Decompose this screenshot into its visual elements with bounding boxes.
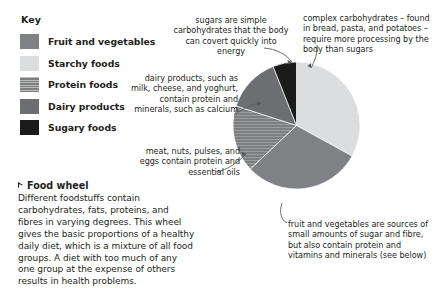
pie-svg	[232, 61, 361, 190]
triangle-marker-icon	[18, 183, 23, 189]
legend-item-sugary-foods: Sugary foods	[20, 117, 180, 139]
caption-heading: Food wheel	[27, 180, 89, 191]
legend-swatch-protein-foods	[20, 77, 39, 92]
legend-label-protein-foods: Protein foods	[48, 79, 118, 90]
annotation-protein-foods: meat, nuts, pulses, and eggs contain pro…	[128, 146, 240, 177]
legend-swatch-dairy-products	[20, 99, 39, 114]
legend-label-starchy-foods: Starchy foods	[48, 58, 120, 69]
legend-item-fruit-and-vegetables: Fruit and vegetables	[20, 31, 180, 53]
legend-item-starchy-foods: Starchy foods	[20, 53, 180, 75]
annotation-dairy-products: dairy products, such as milk, cheese, an…	[128, 73, 238, 115]
legend-label-dairy-products: Dairy products	[48, 101, 125, 112]
figure-caption: Food wheel Different foodstuffs contain …	[18, 180, 196, 288]
legend-swatch-sugary-foods	[20, 120, 39, 135]
legend-label-fruit-and-vegetables: Fruit and vegetables	[48, 36, 155, 47]
food-wheel-pie-chart	[232, 61, 361, 190]
annotation-starchy-foods: complex carbohydrates – found in bread, …	[303, 13, 431, 55]
legend-label-sugary-foods: Sugary foods	[48, 122, 117, 133]
leader-line-fruitveg	[281, 203, 287, 223]
legend-title: Key	[21, 14, 180, 25]
caption-body: Different foodstuffs contain carbohydrat…	[18, 193, 196, 288]
annotation-sugary-foods: sugars are simple carbohydrates that the…	[172, 15, 290, 57]
legend-swatch-fruit-and-vegetables	[20, 34, 39, 49]
annotation-fruit-and-vegetables: fruit and vegetables are sources of smal…	[288, 219, 434, 261]
caption-heading-row: Food wheel	[18, 180, 196, 191]
legend-swatch-starchy-foods	[20, 56, 39, 71]
